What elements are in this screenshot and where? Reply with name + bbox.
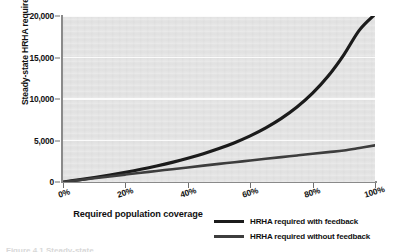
legend-swatch-icon [214, 235, 244, 238]
plot-area [63, 16, 375, 182]
legend-label: HRHA required without feedback [250, 232, 370, 241]
x-tick-label: 20% [116, 185, 134, 199]
x-tick-label: 100% [363, 184, 386, 200]
x-tick-label: 80% [303, 185, 321, 199]
legend-item-with-feedback: HRHA required with feedback [214, 214, 399, 229]
chart-figure: Steady-state HRHA required 05,00010,0001… [0, 0, 399, 252]
y-tick-label: 15,000 [30, 53, 54, 63]
y-tick-mark [55, 16, 60, 17]
x-tick-label: 0% [57, 187, 71, 200]
legend-label: HRHA required with feedback [250, 217, 358, 226]
x-tick-label: 60% [241, 185, 259, 199]
y-tick-label: 5,000 [34, 136, 54, 146]
y-axis-ticks: 05,00010,00015,00020,000 [0, 0, 62, 200]
series-lines [63, 16, 375, 182]
y-tick-label: 0 [50, 177, 54, 187]
x-axis-title: Required population coverage [58, 209, 218, 219]
series-line [63, 145, 375, 182]
chart-legend: HRHA required with feedback HRHA require… [214, 214, 399, 244]
y-tick-label: 20,000 [30, 11, 54, 21]
y-tick-mark [55, 140, 60, 141]
y-tick-mark [55, 182, 60, 183]
caption-stub: Figure 4.1 Steady-state [6, 246, 94, 252]
x-tick-label: 40% [179, 185, 197, 199]
y-tick-label: 10,000 [30, 94, 54, 104]
legend-swatch-icon [214, 220, 244, 223]
y-tick-mark [55, 57, 60, 58]
y-tick-mark [55, 99, 60, 100]
legend-item-without-feedback: HRHA required without feedback [214, 229, 399, 244]
series-line [63, 16, 375, 182]
